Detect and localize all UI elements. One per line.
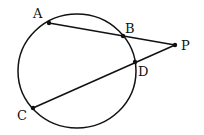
secant-diagram: A B P D C	[0, 0, 204, 135]
point-p	[173, 43, 177, 47]
label-a: A	[32, 6, 43, 21]
secant-c-p	[33, 45, 175, 108]
secant-a-p	[49, 23, 175, 45]
point-c	[31, 106, 35, 110]
circle	[18, 14, 136, 128]
point-d	[133, 60, 137, 64]
label-c: C	[17, 108, 27, 123]
point-a	[47, 21, 51, 25]
label-p: P	[181, 38, 190, 53]
label-b: B	[125, 21, 135, 36]
label-d: D	[138, 64, 148, 79]
